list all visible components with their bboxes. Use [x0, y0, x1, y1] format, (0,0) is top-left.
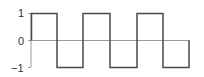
- y-tick-label-minus-1: −1: [11, 62, 24, 74]
- y-tick-label-0: 0: [18, 35, 24, 47]
- y-tick-label-1: 1: [18, 7, 24, 19]
- square-wave-diagram: 1 0 −1: [0, 0, 204, 77]
